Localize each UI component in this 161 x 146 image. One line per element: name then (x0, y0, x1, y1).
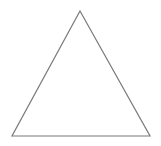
diagram-canvas (0, 0, 161, 146)
triangle-diagram (0, 0, 161, 146)
triangle-shape (12, 11, 150, 136)
